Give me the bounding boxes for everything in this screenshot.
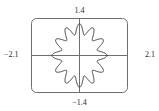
plot-canvas [0,0,159,111]
window-label-xmin: −2.1 [4,51,19,59]
window-label-ymin: −1.4 [0,99,159,107]
window-label-ymax: 1.4 [0,7,159,15]
graph-figure: 1.4 −1.4 −2.1 2.1 [0,0,159,111]
window-label-xmax: 2.1 [145,51,155,59]
